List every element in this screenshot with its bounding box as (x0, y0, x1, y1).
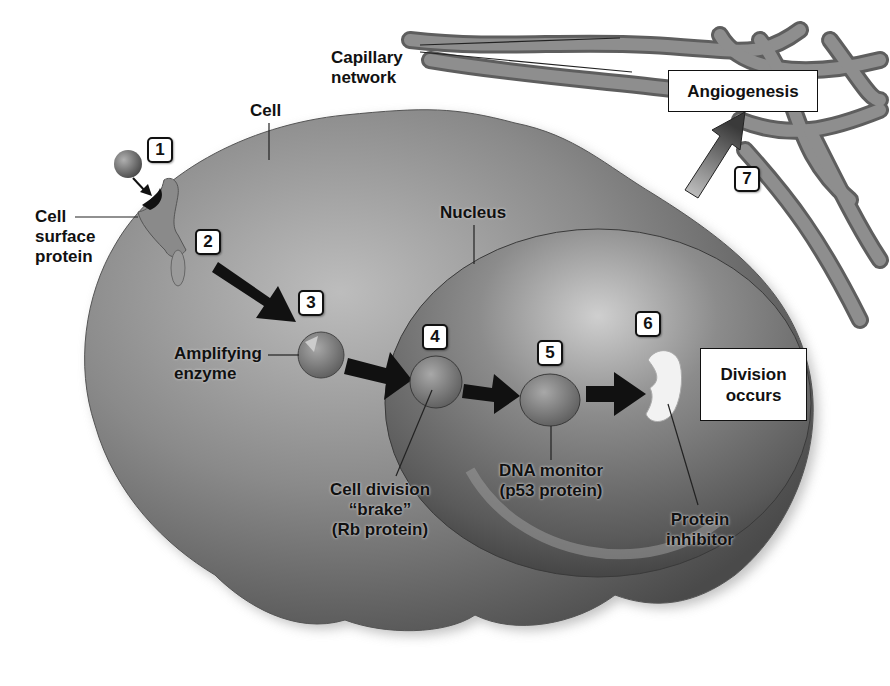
step-marker-4: 4 (422, 324, 448, 350)
label-p53-protein: DNA monitor (p53 protein) (486, 461, 616, 501)
angiogenesis-box: Angiogenesis (668, 70, 818, 112)
step-marker-7: 7 (734, 166, 760, 192)
amplifying-enzyme-shape (298, 332, 344, 378)
label-amplifying-enzyme: Amplifying enzyme (174, 344, 262, 384)
p53-protein-shape (520, 374, 580, 426)
diagram-canvas: Capillary network Cell Cell surface prot… (0, 0, 890, 686)
label-protein-inhibitor: Protein inhibitor (655, 510, 745, 550)
label-cell-surface-protein: Cell surface protein (35, 207, 95, 267)
cell-surface-protein-inner (171, 250, 185, 286)
signal-molecule (114, 150, 142, 178)
label-capillary-network: Capillary network (331, 48, 403, 88)
division-occurs-box: Division occurs (700, 348, 807, 421)
step-marker-2: 2 (195, 229, 221, 255)
step-marker-1: 1 (147, 137, 173, 163)
label-cell: Cell (250, 101, 281, 121)
step-marker-6: 6 (635, 311, 661, 337)
rb-protein-shape (410, 356, 462, 408)
step-marker-3: 3 (298, 290, 324, 316)
step-marker-5: 5 (537, 340, 563, 366)
label-nucleus: Nucleus (440, 203, 506, 223)
label-rb-protein: Cell division “brake” (Rb protein) (315, 480, 445, 540)
